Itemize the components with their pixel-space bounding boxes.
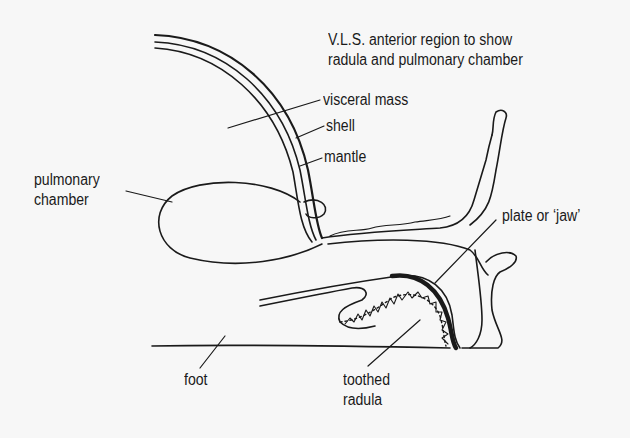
label-radula-line1: toothed xyxy=(343,370,390,389)
label-pulmonary-line1: pulmonary xyxy=(34,170,100,189)
leader-pulmonary xyxy=(126,191,172,202)
label-pulmonary-line2: chamber xyxy=(34,190,89,209)
jaw-plate xyxy=(392,275,456,348)
label-visceral-mass: visceral mass xyxy=(323,90,408,109)
label-mantle: mantle xyxy=(324,147,366,166)
pulmonary-chamber-outline xyxy=(159,182,322,263)
label-shell: shell xyxy=(326,116,355,135)
leader-mantle xyxy=(300,158,322,166)
diagram-title-line1: V.L.S. anterior region to show xyxy=(328,30,512,49)
label-radula-line2: radula xyxy=(343,390,382,409)
leader-shell xyxy=(296,126,324,138)
snail-diagram: V.L.S. anterior region to show radula an… xyxy=(0,0,630,438)
shell-lines xyxy=(155,35,322,242)
lower-tentacle xyxy=(462,253,516,348)
label-plate-jaw: plate or ‘jaw’ xyxy=(502,206,580,225)
leader-foot xyxy=(200,336,225,368)
leader-radula xyxy=(368,320,420,366)
diagram-title-line2: radula and pulmonary chamber xyxy=(328,50,523,69)
foot-baseline xyxy=(152,345,450,348)
label-foot: foot xyxy=(184,370,207,389)
tentacle xyxy=(470,110,506,225)
